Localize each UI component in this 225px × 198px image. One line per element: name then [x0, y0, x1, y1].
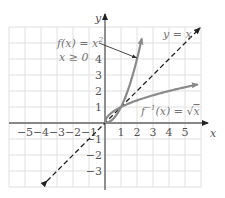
f-label: f(x) = x2: [56, 35, 103, 50]
chart-canvas: x y −5−4−3−2−112345 4321−1−2−3 f(x) = x2…: [0, 0, 225, 198]
f-curve: [105, 38, 142, 123]
y-tick-label: 3: [95, 69, 102, 82]
x-tick-label: −4: [33, 126, 49, 139]
y-tick-label: 1: [95, 101, 102, 114]
identity-label: y = x: [162, 28, 192, 41]
y-axis-label: y: [94, 12, 102, 25]
x-tick-label: 3: [150, 126, 157, 139]
x-tick-label: 5: [182, 126, 189, 139]
y-tick-label: −3: [86, 165, 102, 178]
f-condition: x ≥ 0: [59, 51, 88, 64]
x-tick-label: 4: [166, 126, 173, 139]
inverse-label: f−1(x) = √x: [140, 104, 200, 118]
x-tick-label: 1: [118, 126, 125, 139]
y-tick-label: −2: [86, 149, 102, 162]
y-tick-labels: 4321−1−2−3: [86, 53, 102, 178]
x-axis-label: x: [210, 127, 217, 140]
x-tick-label: −2: [65, 126, 81, 139]
x-tick-labels: −5−4−3−2−112345: [17, 126, 189, 139]
x-tick-label: −3: [49, 126, 65, 139]
y-tick-label: 4: [95, 53, 102, 66]
x-tick-label: −5: [17, 126, 33, 139]
y-tick-label: 2: [95, 85, 102, 98]
x-tick-label: 2: [134, 126, 141, 139]
